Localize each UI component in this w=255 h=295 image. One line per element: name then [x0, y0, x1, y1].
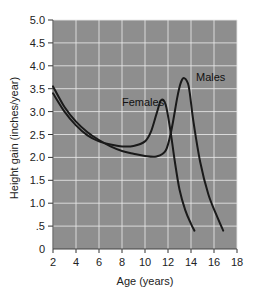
y-tick-label: 3.5 — [30, 83, 45, 95]
y-tick-label: 2.0 — [30, 151, 45, 163]
females-label: Females — [122, 96, 165, 108]
x-tick-label: 14 — [185, 256, 197, 268]
y-tick-label: 4.5 — [30, 37, 45, 49]
x-tick-label: 12 — [162, 256, 174, 268]
y-tick-label: .5 — [36, 220, 45, 232]
males-label: Males — [196, 71, 226, 83]
x-tick-label: 8 — [119, 256, 125, 268]
x-axis-label: Age (years) — [117, 275, 174, 287]
y-tick-label: 1.0 — [30, 197, 45, 209]
y-tick-label: 5.0 — [30, 14, 45, 26]
x-tick-label: 16 — [208, 256, 220, 268]
x-tick-label: 6 — [96, 256, 102, 268]
y-tick-label: 0 — [39, 243, 45, 255]
y-tick-label: 4.0 — [30, 60, 45, 72]
x-tick-label: 18 — [231, 256, 243, 268]
y-tick-label: 1.5 — [30, 174, 45, 186]
y-tick-label: 3.0 — [30, 106, 45, 118]
x-tick-label: 2 — [50, 256, 56, 268]
x-tick-label: 10 — [139, 256, 151, 268]
y-tick-label: 2.5 — [30, 129, 45, 141]
height-gain-chart: 246810121416180.51.01.52.02.53.03.54.04.… — [0, 0, 255, 295]
y-axis-label: Height gain (inches/year) — [8, 77, 20, 199]
x-tick-label: 4 — [73, 256, 79, 268]
